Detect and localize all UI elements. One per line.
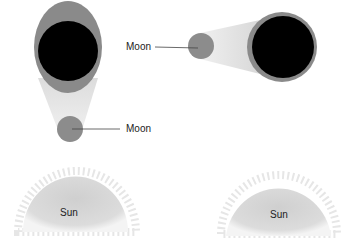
right-sun-label: Sun bbox=[270, 209, 288, 220]
left-sun-group: Sun bbox=[18, 171, 136, 232]
right-moon bbox=[188, 33, 214, 59]
right-sun-group: Sun bbox=[221, 175, 337, 236]
eclipse-diagram: Moon Moon Sun Sun bbox=[0, 0, 349, 245]
left-umbra bbox=[38, 21, 98, 81]
left-eclipse-group: Moon bbox=[34, 1, 151, 142]
diagram-canvas: Moon Moon Sun Sun bbox=[0, 0, 349, 245]
right-eclipse-group: Moon bbox=[126, 12, 317, 82]
left-sun-label: Sun bbox=[60, 207, 78, 218]
right-umbra bbox=[252, 16, 314, 78]
left-moon-label: Moon bbox=[126, 123, 151, 134]
right-moon-label: Moon bbox=[126, 41, 151, 52]
left-sun bbox=[23, 176, 128, 232]
